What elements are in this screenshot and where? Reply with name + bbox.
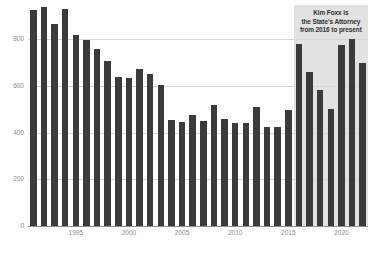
annotation-kim-foxx: Kim Foxx isthe State's Attorneyfrom 2016… bbox=[294, 9, 368, 35]
x-tick-label-1995: 1995 bbox=[69, 229, 83, 236]
x-tick-label-2010: 2010 bbox=[228, 229, 242, 236]
x-axis: 199520002005201020152020 bbox=[0, 0, 375, 257]
x-tick-label-2020: 2020 bbox=[334, 229, 348, 236]
x-tick-label-2005: 2005 bbox=[175, 229, 189, 236]
annotation-line-3: from 2016 to present bbox=[294, 26, 368, 35]
annotation-line-2: the State's Attorney bbox=[294, 18, 368, 27]
annotation-line-1: Kim Foxx is bbox=[294, 9, 368, 18]
x-tick-label-2000: 2000 bbox=[122, 229, 136, 236]
x-tick-label-2015: 2015 bbox=[281, 229, 295, 236]
bar-chart: 0200400600800 199520002005201020152020 K… bbox=[0, 0, 375, 257]
